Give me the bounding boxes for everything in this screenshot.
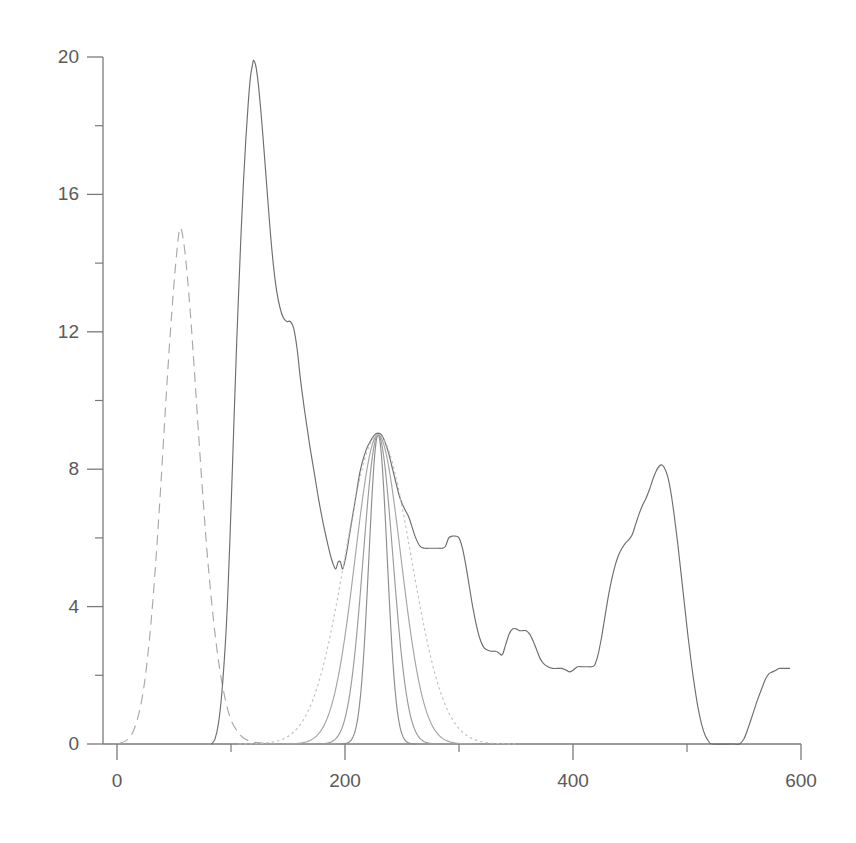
- series-group: [119, 60, 789, 744]
- y-tick-label: 4: [0, 596, 79, 618]
- series-gaussian-fit-widest: [239, 435, 517, 744]
- series-main-spectrum: [212, 60, 790, 744]
- y-tick-label: 12: [0, 321, 79, 343]
- x-tick-label: 200: [305, 770, 385, 792]
- series-dashed-left-peak: [119, 228, 276, 744]
- y-tick-label: 0: [0, 733, 79, 755]
- series-gaussian-fit-medium: [316, 435, 440, 744]
- series-gaussian-fit-wide: [282, 435, 474, 744]
- x-tick-label: 600: [761, 770, 841, 792]
- y-tick-label: 16: [0, 183, 79, 205]
- y-tick-label: 8: [0, 458, 79, 480]
- chart-container: 0481216200200400600: [0, 0, 856, 843]
- x-tick-label: 0: [77, 770, 157, 792]
- y-tick-label: 20: [0, 46, 79, 68]
- plot-area: [0, 0, 856, 843]
- axes-group: [87, 57, 801, 760]
- x-tick-label: 400: [533, 770, 613, 792]
